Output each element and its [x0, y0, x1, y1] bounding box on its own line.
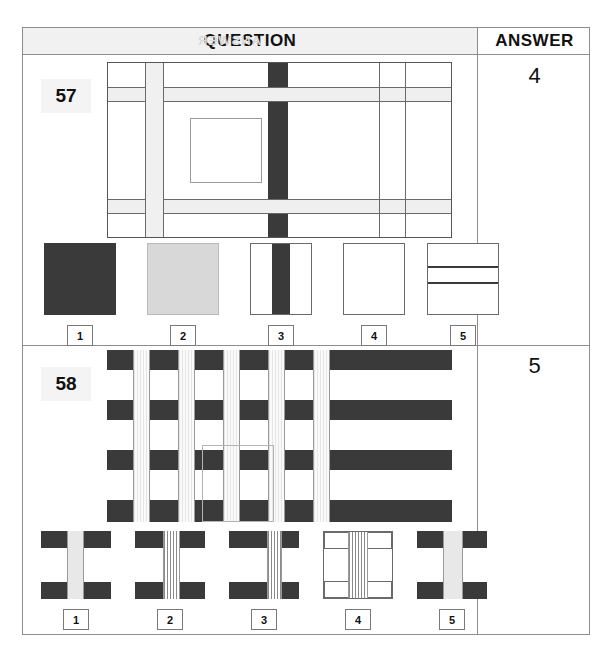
- question-57-cell: 57: [23, 55, 478, 345]
- option-58-3[interactable]: 3: [229, 531, 299, 599]
- question-57-options: 1 2 3 4: [23, 55, 478, 345]
- option-58-3-label: 3: [251, 609, 277, 630]
- answer-58: 5: [478, 345, 591, 635]
- option-57-2[interactable]: 2: [147, 243, 219, 315]
- question-table: ANSWER QUESTION ANSWER 57: [22, 27, 590, 635]
- ghost-showthrough-text: ANSWER: [31, 33, 261, 48]
- option-58-4[interactable]: 4: [323, 531, 393, 599]
- option-57-1-label: 1: [67, 325, 93, 346]
- option-57-4[interactable]: 4: [343, 243, 405, 315]
- option-58-2[interactable]: 2: [135, 531, 205, 599]
- answer-sheet-page: ANSWER QUESTION ANSWER 57: [0, 0, 612, 660]
- option-57-5-label: 5: [450, 325, 476, 346]
- option-57-3-label: 3: [268, 325, 294, 346]
- option-58-5[interactable]: 5: [417, 531, 487, 599]
- question-row-58: 58: [23, 345, 589, 635]
- option-57-1[interactable]: 1: [44, 243, 116, 315]
- option-58-1[interactable]: 1: [41, 531, 111, 599]
- question-58-cell: 58: [23, 345, 478, 635]
- answer-column-header: ANSWER: [478, 28, 591, 54]
- option-58-2-label: 2: [157, 609, 183, 630]
- question-row-57: 57: [23, 55, 589, 346]
- option-58-1-label: 1: [63, 609, 89, 630]
- question-58-options: 1 2: [23, 345, 478, 635]
- option-57-4-label: 4: [361, 325, 387, 346]
- option-58-5-label: 5: [439, 609, 465, 630]
- option-58-4-label: 4: [345, 609, 371, 630]
- option-57-3[interactable]: 3: [250, 243, 312, 315]
- answer-57: 4: [478, 55, 591, 345]
- question-column-header: ANSWER QUESTION: [23, 28, 478, 54]
- table-header-row: ANSWER QUESTION ANSWER: [23, 28, 589, 55]
- option-57-2-label: 2: [170, 325, 196, 346]
